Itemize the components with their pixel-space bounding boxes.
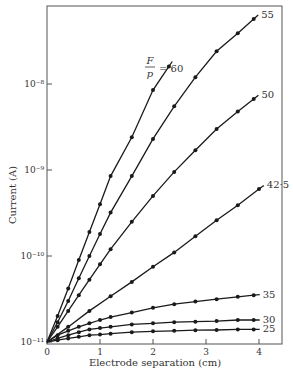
data-point — [151, 329, 155, 333]
plot-border — [47, 6, 282, 344]
data-point — [66, 329, 70, 333]
data-point — [172, 104, 176, 108]
data-point — [236, 109, 240, 113]
data-point — [109, 315, 113, 319]
data-point — [252, 318, 256, 322]
data-point — [236, 203, 240, 207]
data-point — [98, 232, 102, 236]
data-point — [151, 306, 155, 310]
data-point — [130, 220, 134, 224]
data-point — [87, 254, 91, 258]
y-tick-label: 10⁻⁹ — [24, 165, 44, 175]
data-point — [236, 327, 240, 331]
data-point — [172, 302, 176, 306]
y-axis-label: Current (A) — [7, 166, 18, 224]
series-50 — [47, 95, 258, 342]
data-point — [193, 234, 197, 238]
data-point — [109, 174, 113, 178]
data-point — [257, 187, 261, 191]
x-tick-label: 4 — [256, 347, 262, 357]
data-point — [130, 311, 134, 315]
data-point — [56, 320, 60, 324]
series-label: 25 — [263, 323, 276, 334]
data-point — [172, 320, 176, 324]
x-axis-label: Electrode separation (cm) — [89, 357, 221, 368]
data-point — [66, 286, 70, 290]
data-point — [151, 321, 155, 325]
annotation-value: = 60 — [159, 63, 183, 74]
data-point — [130, 174, 134, 178]
data-point — [77, 258, 81, 262]
annotation-p: p — [147, 68, 154, 79]
data-point — [130, 330, 134, 334]
data-point — [151, 88, 155, 92]
plot-frame — [47, 6, 282, 344]
series-42-5 — [47, 186, 264, 343]
data-point — [98, 326, 102, 330]
data-point — [56, 338, 60, 342]
data-point — [87, 309, 91, 313]
data-point — [130, 322, 134, 326]
data-point — [66, 309, 70, 313]
data-point — [66, 299, 70, 303]
data-point — [215, 297, 219, 301]
data-point — [130, 280, 134, 284]
data-point — [215, 319, 219, 323]
data-point — [151, 194, 155, 198]
x-tick-label: 1 — [97, 347, 103, 357]
data-point — [66, 336, 70, 340]
series-60 — [47, 62, 172, 343]
series-label: 35 — [263, 289, 276, 300]
data-point — [66, 325, 70, 329]
data-point — [215, 328, 219, 332]
data-point — [109, 247, 113, 251]
series-labels: 555042·5353025 — [261, 9, 289, 334]
series-group — [47, 15, 264, 342]
y-tick-label: 10⁻⁸ — [24, 79, 44, 89]
data-point — [215, 49, 219, 53]
data-point — [98, 202, 102, 206]
data-point — [87, 333, 91, 337]
data-point — [193, 328, 197, 332]
data-point — [215, 127, 219, 131]
data-point — [236, 295, 240, 299]
annotation-F: F — [146, 55, 155, 66]
data-point — [252, 97, 256, 101]
data-point — [236, 318, 240, 322]
data-point — [98, 318, 102, 322]
data-point — [56, 314, 60, 318]
data-point — [252, 293, 256, 297]
series-label: 55 — [261, 9, 274, 20]
series-label: 50 — [261, 89, 274, 100]
series-line — [47, 62, 172, 343]
data-point — [130, 135, 134, 139]
series-line — [47, 186, 264, 343]
x-axis: 01234 — [44, 339, 262, 357]
data-point — [77, 330, 81, 334]
data-point — [193, 320, 197, 324]
data-point — [87, 230, 91, 234]
data-point — [172, 170, 176, 174]
data-point — [109, 332, 113, 336]
fp-annotation: Fp= 60 — [145, 55, 183, 79]
data-point — [98, 262, 102, 266]
x-tick-label: 2 — [150, 347, 156, 357]
y-tick-label: 10⁻¹⁰ — [21, 251, 45, 261]
series-35 — [47, 293, 260, 342]
data-point — [109, 325, 113, 329]
data-point — [151, 265, 155, 269]
data-point — [151, 137, 155, 141]
data-point — [109, 294, 113, 298]
data-point — [172, 329, 176, 333]
data-point — [77, 335, 81, 339]
data-point — [87, 278, 91, 282]
data-point — [215, 218, 219, 222]
data-point — [193, 75, 197, 79]
data-point — [109, 211, 113, 215]
data-point — [77, 325, 81, 329]
data-point — [77, 276, 81, 280]
y-tick-label: 10⁻¹¹ — [21, 337, 44, 347]
data-point — [56, 325, 60, 329]
x-tick-label: 3 — [203, 347, 209, 357]
data-point — [252, 17, 256, 21]
